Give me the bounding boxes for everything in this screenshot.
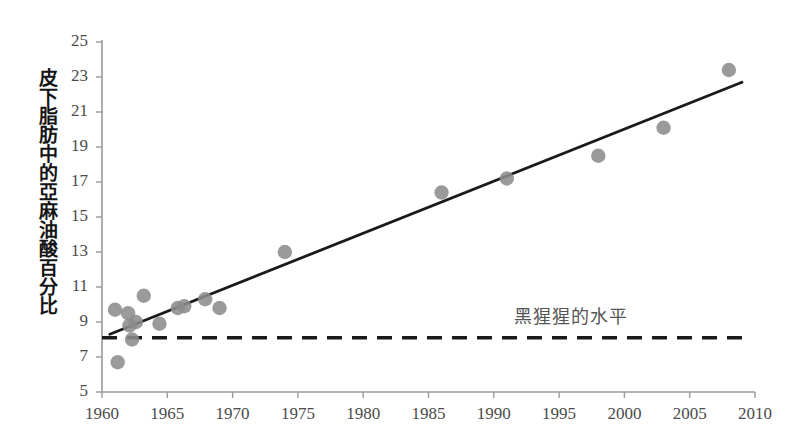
data-point	[129, 315, 143, 329]
data-points-group	[108, 63, 736, 370]
x-axis-tick-label: 1965	[139, 404, 195, 424]
y-axis-tick-label: 21	[54, 101, 88, 121]
data-point	[722, 63, 736, 77]
x-axis-tick-label: 1980	[335, 404, 391, 424]
data-point	[125, 332, 139, 346]
x-axis-tick-label: 2010	[727, 404, 783, 424]
data-point	[656, 121, 670, 135]
y-axis-tick-label: 23	[54, 66, 88, 86]
y-axis-tick-label: 13	[54, 241, 88, 261]
axes-group	[96, 40, 755, 398]
y-axis-title: 皮下脂肪中的亞麻油酸百分比	[22, 26, 56, 356]
y-axis-tick-label: 7	[54, 346, 88, 366]
chart-figure: 皮下脂肪中的亞麻油酸百分比 5791113151719212325 196019…	[0, 0, 787, 443]
x-axis-tick-label: 1990	[466, 404, 522, 424]
data-point	[137, 289, 151, 303]
reference-line-annotation: 黑猩猩的水平	[514, 302, 628, 328]
x-axis-tick-label: 1975	[270, 404, 326, 424]
data-point	[108, 303, 122, 317]
y-axis-tick-label: 17	[54, 171, 88, 191]
data-point	[177, 299, 191, 313]
data-point	[152, 317, 166, 331]
y-axis-tick-label: 15	[54, 206, 88, 226]
scatter-plot-canvas	[0, 0, 787, 443]
y-axis-tick-label: 19	[54, 136, 88, 156]
data-point	[212, 301, 226, 315]
x-axis-tick-label: 1970	[205, 404, 261, 424]
y-axis-tick-label: 11	[54, 276, 88, 296]
data-point	[110, 355, 124, 369]
data-point	[591, 149, 605, 163]
x-axis-tick-label: 1985	[401, 404, 457, 424]
data-point	[198, 292, 212, 306]
data-point	[434, 185, 448, 199]
y-axis-tick-label: 25	[54, 31, 88, 51]
data-point	[278, 245, 292, 259]
y-axis-tick-label: 5	[54, 381, 88, 401]
x-axis-tick-label: 2000	[596, 404, 652, 424]
x-axis-tick-label: 1960	[74, 404, 130, 424]
x-axis-tick-label: 1995	[531, 404, 587, 424]
y-axis-tick-label: 9	[54, 311, 88, 331]
data-point	[500, 171, 514, 185]
x-axis-tick-label: 2005	[662, 404, 718, 424]
